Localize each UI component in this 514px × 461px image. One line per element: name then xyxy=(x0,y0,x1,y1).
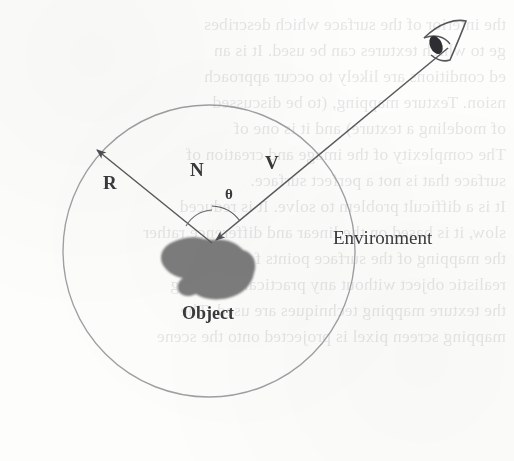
angle-arc-theta xyxy=(212,206,240,221)
view-vector-V xyxy=(216,48,448,240)
diagram-svg xyxy=(0,0,514,461)
angle-theta-label: θ xyxy=(225,186,233,203)
object-label: Object xyxy=(182,303,234,324)
figure-canvas: the interior of the surface which descri… xyxy=(0,0,514,461)
reflection-vector-label: R xyxy=(103,172,117,194)
eye-icon xyxy=(424,20,466,60)
object-blob xyxy=(161,237,255,299)
angle-arc-secondary xyxy=(186,210,212,226)
view-vector-label: V xyxy=(265,152,279,174)
normal-vector-label: N xyxy=(190,159,204,181)
environment-label: Environment xyxy=(333,227,432,249)
